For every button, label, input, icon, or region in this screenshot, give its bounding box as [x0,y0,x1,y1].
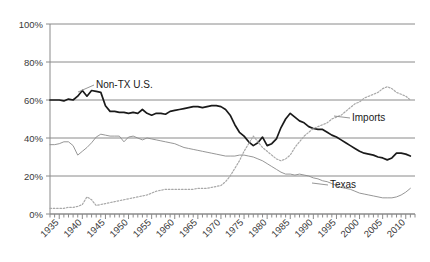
x-tick-label: 1960 [153,217,176,240]
x-tick-label: 1990 [292,217,315,240]
data-series-group [50,87,410,209]
x-axis: 1935194019451950195519601965197019751980… [38,214,415,239]
y-tick-label: 20% [24,171,44,182]
series-line-non-tx-u-s [50,91,410,160]
y-tick-label: 40% [24,133,44,144]
x-tick-label: 1975 [223,217,246,240]
x-tick-label: 1945 [84,217,107,240]
y-axis: 0%20%40%60%80%100% [19,19,50,220]
series-label-imports: Imports [352,112,385,123]
line-chart: 0%20%40%60%80%100% 193519401945195019551… [0,0,430,262]
series-label-non-tx-u-s: Non-TX U.S. [96,79,153,90]
x-tick-label: 2005 [361,217,384,240]
x-tick-label: 1985 [269,217,292,240]
y-tick-label: 0% [29,209,43,220]
x-tick-label: 1965 [177,217,200,240]
chart-container: 0%20%40%60%80%100% 193519401945195019551… [0,0,430,262]
series-leader-line-texas [312,183,328,185]
x-tick-label: 1970 [200,217,223,240]
x-tick-label: 1980 [246,217,269,240]
x-tick-label: 1950 [107,217,130,240]
y-tick-label: 80% [24,57,44,68]
x-tick-label: 2010 [384,217,407,240]
x-tick-label: 2000 [338,217,361,240]
series-label-texas: Texas [330,179,356,190]
y-tick-label: 60% [24,95,44,106]
series-line-imports [50,87,410,209]
x-tick-label: 1935 [38,217,61,240]
y-tick-label: 100% [19,19,44,30]
series-line-texas [50,134,410,198]
x-tick-label: 1955 [130,217,153,240]
x-tick-label: 1940 [61,217,84,240]
x-tick-label: 1995 [315,217,338,240]
